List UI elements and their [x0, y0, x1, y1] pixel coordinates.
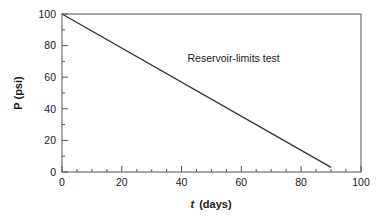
x-tick-label: 0 [59, 176, 65, 188]
x-axis-title: t (days) [190, 198, 231, 210]
y-tick-label: 20 [44, 134, 56, 146]
plot-background [62, 14, 361, 172]
y-tick-labels: 0 20 40 60 80 100 [38, 8, 56, 178]
y-axis-title: P (psi) [12, 76, 24, 110]
x-tick-label: 80 [295, 176, 307, 188]
x-axis-title-variable: t [190, 198, 195, 210]
y-tick-label: 80 [44, 39, 56, 51]
x-tick-label: 60 [235, 176, 247, 188]
x-tick-label: 20 [116, 176, 128, 188]
chart-figure: 0 20 40 60 80 100 0 20 40 60 80 100 P (p… [0, 0, 382, 218]
chart-annotation: Reservoir-limits test [188, 52, 280, 64]
x-tick-labels: 0 20 40 60 80 100 [59, 176, 370, 188]
y-tick-label: 0 [50, 166, 56, 178]
reservoir-limits-line-chart: 0 20 40 60 80 100 0 20 40 60 80 100 P (p… [0, 0, 382, 218]
x-tick-label: 100 [352, 176, 370, 188]
x-tick-label: 40 [176, 176, 188, 188]
y-tick-label: 60 [44, 71, 56, 83]
x-axis-title-unit: (days) [196, 198, 232, 210]
y-tick-label: 100 [38, 8, 56, 20]
y-tick-label: 40 [44, 103, 56, 115]
